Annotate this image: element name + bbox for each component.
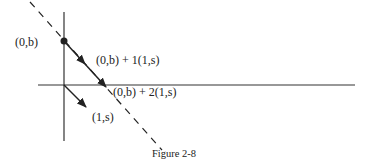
figure-2-8-diagram: (0,b) (0,b) + 1(1,s) (0,b) + 2(1,s) (1,s… <box>0 0 369 167</box>
label-direction-vector: (1,s) <box>92 110 114 124</box>
arrow-step-2 <box>85 64 106 87</box>
label-step-1: (0,b) + 1(1,s) <box>96 53 159 67</box>
label-step-2: (0,b) + 2(1,s) <box>113 85 176 99</box>
figure-caption: Figure 2-8 <box>152 148 196 159</box>
direction-vector-arrow <box>64 85 86 107</box>
arrow-step-1 <box>64 41 85 64</box>
point-0b-dot <box>61 38 68 45</box>
label-0b: (0,b) <box>15 35 38 49</box>
